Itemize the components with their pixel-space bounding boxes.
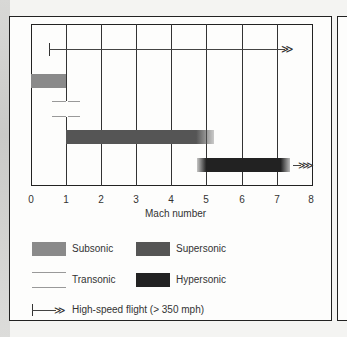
legend-label-high-speed: High-speed flight (> 350 mph) <box>72 304 204 315</box>
x-tick-1: 1 <box>60 194 72 205</box>
legend-label-subsonic: Subsonic <box>72 243 113 254</box>
hypersonic-bar <box>197 158 290 172</box>
double-chevron-right-icon: ≫ <box>281 42 294 56</box>
x-tick-5: 5 <box>200 194 212 205</box>
legend-label-supersonic: Supersonic <box>176 243 226 254</box>
legend-swatch-transonic-top <box>32 272 66 273</box>
x-tick-2: 2 <box>95 194 107 205</box>
x-axis-title-text: Mach number <box>145 208 206 219</box>
arrow-shaft <box>49 49 285 50</box>
legend-swatch-transonic-bottom <box>32 287 66 288</box>
x-tick-7: 7 <box>271 194 283 205</box>
legend-swatch-subsonic <box>32 242 66 256</box>
x-tick-0: 0 <box>25 194 37 205</box>
x-tick-4: 4 <box>165 194 177 205</box>
legend-label-transonic: Transonic <box>72 274 116 285</box>
transonic-gap <box>66 101 68 117</box>
x-tick-6: 6 <box>236 194 248 205</box>
legend-label-hypersonic: Hypersonic <box>176 274 226 285</box>
x-tick-8: 8 <box>305 194 317 205</box>
supersonic-bar <box>66 130 214 144</box>
legend-double-chevron-icon: ≫ <box>54 303 66 317</box>
subsonic-bar <box>31 74 66 88</box>
x-tick-3: 3 <box>130 194 142 205</box>
legend-arrow-shaft <box>32 310 56 311</box>
legend-swatch-supersonic <box>136 242 170 256</box>
triple-chevron-right-icon: ⋙ <box>298 158 314 172</box>
adjacent-figure-frame <box>337 16 347 321</box>
legend-swatch-hypersonic <box>136 273 170 287</box>
